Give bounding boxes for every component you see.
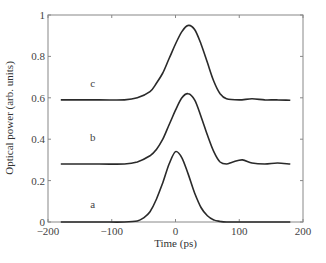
curve-b [61, 94, 290, 165]
curve-labels: cba [90, 77, 96, 209]
x-tick-label: 0 [173, 225, 179, 237]
plot-area [48, 15, 303, 222]
y-tick-label: 0.8 [31, 50, 45, 62]
x-tick-label: 100 [231, 225, 248, 237]
y-tick-label: 0.4 [31, 133, 45, 145]
chart: −200−100010020000.20.40.60.81 cba Time (… [0, 0, 326, 263]
curves [61, 25, 290, 222]
curve-c [61, 25, 290, 100]
curve-label-b: b [90, 131, 96, 143]
axes-frame [48, 15, 303, 222]
curve-a [61, 151, 290, 222]
y-tick-label: 0.2 [31, 175, 45, 187]
x-tick-label: −100 [100, 225, 123, 237]
x-tick-label: 200 [295, 225, 312, 237]
curve-label-a: a [90, 198, 95, 210]
y-axis-label: Optical power (arb. units) [3, 61, 16, 175]
y-tick-label: 0 [40, 216, 46, 228]
curve-label-c: c [90, 77, 95, 89]
y-tick-label: 1 [40, 9, 46, 21]
ticks: −200−100010020000.20.40.60.81 [31, 9, 312, 237]
y-tick-label: 0.6 [31, 92, 45, 104]
x-axis-label: Time (ps) [154, 237, 197, 250]
